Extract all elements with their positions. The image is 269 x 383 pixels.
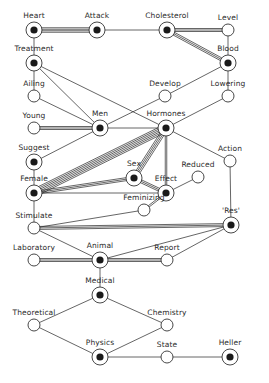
node-level [222,24,234,36]
node-suggest [26,154,42,170]
node-feminizing [138,204,150,216]
node-label-physics: Physics [86,339,114,347]
node-label-hormones: Hormones [146,110,185,118]
node-men [92,120,108,136]
node-label-action: Action [218,145,242,153]
node-label-cholesterol: Cholesterol [145,12,188,20]
node-report [161,254,173,266]
node-treatment [26,55,42,71]
node-ailing [28,90,40,102]
node-label-res: 'Res' [222,207,240,215]
node-label-attack: Attack [85,12,110,20]
node-laboratory [28,254,40,266]
node-medical [92,287,108,303]
node-sex [126,170,142,186]
node-label-theoretical: Theoretical [13,309,56,317]
node-label-reduced: Reduced [181,161,214,169]
node-label-feminizing: Feminizing [123,194,164,202]
node-lowering [222,90,234,102]
node-label-state: State [157,341,177,349]
node-blood [220,55,236,71]
node-label-level: Level [218,14,238,22]
node-animal [92,252,108,268]
node-label-stimulate: Stimulate [16,212,53,220]
node-label-report: Report [154,244,179,252]
node-label-medical: Medical [85,277,114,285]
node-label-heart: Heart [23,12,44,20]
node-attack [89,22,105,38]
node-label-heller: Heller [219,339,242,347]
node-label-laboratory: Laboratory [13,244,55,252]
node-label-treatment: Treatment [14,45,53,53]
node-reduced [192,171,204,183]
node-physics [92,349,108,365]
node-res [223,217,239,233]
node-label-suggest: Suggest [18,144,49,152]
node-state [161,351,173,363]
node-label-female: Female [20,175,48,183]
nodes-layer [0,0,269,383]
node-label-young: Young [23,112,46,120]
node-label-chemistry: Chemistry [147,309,186,317]
node-label-men: Men [92,110,108,118]
node-young [28,122,40,134]
node-label-lowering: Lowering [211,80,246,88]
node-hormones [158,120,174,136]
node-cholesterol [159,22,175,38]
node-label-ailing: Ailing [23,80,45,88]
node-label-animal: Animal [87,242,114,250]
node-label-effect: Effect [155,175,177,183]
node-chemistry [161,319,173,331]
node-female [26,185,42,201]
node-heart [26,22,42,38]
word-network-diagram: HeartAttackCholesterolLevelTreatmentBloo… [0,0,269,383]
node-label-blood: Blood [217,45,239,53]
node-action [224,155,236,167]
node-label-develop: Develop [149,80,181,88]
node-label-sex: Sex [127,160,141,168]
node-heller [222,349,238,365]
node-theoretical [28,319,40,331]
node-develop [159,90,171,102]
node-stimulate [28,222,40,234]
